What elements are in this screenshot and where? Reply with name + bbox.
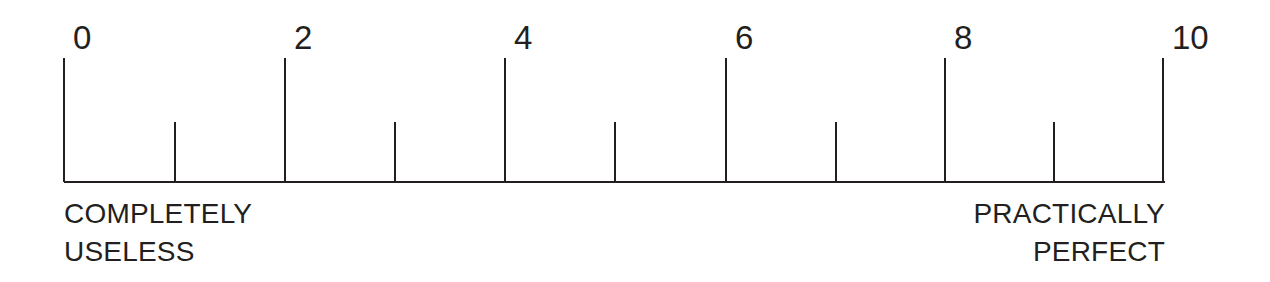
tick-label-0: 0 bbox=[73, 19, 91, 56]
tick-label-group: 0 2 4 6 8 10 bbox=[73, 19, 1209, 56]
right-caption-line-1: PRACTICALLY bbox=[973, 198, 1165, 229]
major-tick-group bbox=[64, 58, 1163, 182]
tick-label-4: 4 bbox=[514, 19, 532, 56]
minor-tick-group bbox=[175, 122, 1054, 182]
tick-label-8: 8 bbox=[954, 19, 972, 56]
tick-label-6: 6 bbox=[735, 19, 753, 56]
rating-scale-svg: 0 2 4 6 8 10 COMPLETELY USELESS PRACTICA… bbox=[0, 0, 1270, 282]
left-caption-line-1: COMPLETELY bbox=[64, 198, 252, 229]
left-caption-line-2: USELESS bbox=[64, 236, 195, 267]
right-caption-line-2: PERFECT bbox=[1033, 236, 1165, 267]
tick-label-2: 2 bbox=[294, 19, 312, 56]
rating-scale-figure: 0 2 4 6 8 10 COMPLETELY USELESS PRACTICA… bbox=[0, 0, 1270, 282]
tick-label-10: 10 bbox=[1172, 19, 1209, 56]
right-endpoint-caption: PRACTICALLY PERFECT bbox=[973, 198, 1165, 267]
left-endpoint-caption: COMPLETELY USELESS bbox=[64, 198, 252, 267]
